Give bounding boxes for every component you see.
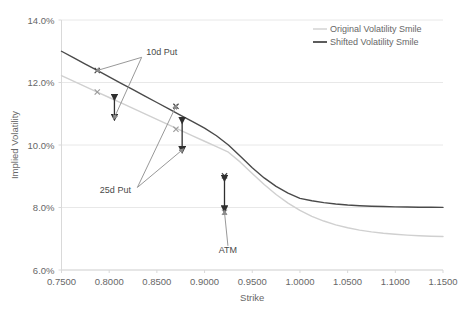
x-tick-label-4: 0.9500 xyxy=(238,276,267,287)
x-tick-label-7: 1.1000 xyxy=(381,276,410,287)
y-tick-label-4: 14.0% xyxy=(28,15,55,26)
y-tick-label-2: 10.0% xyxy=(28,140,55,151)
leader-25d-put-1 xyxy=(137,150,182,187)
leader-atm-0 xyxy=(224,212,227,246)
x-tick-label-1: 0.8000 xyxy=(95,276,124,287)
series-line-0 xyxy=(62,76,444,237)
legend-label-0: Original Volatility Smile xyxy=(330,24,422,34)
marker-25d-put-series-1 xyxy=(173,104,178,109)
series-line-1 xyxy=(62,51,444,207)
annotation-atm: ATM xyxy=(219,245,237,255)
x-axis-title: Strike xyxy=(240,292,264,303)
annotation-10d-put: 10d Put xyxy=(146,47,178,57)
x-tick-label-8: 1.1500 xyxy=(428,276,457,287)
y-tick-label-0: 6.0% xyxy=(33,265,55,276)
leader-10d-put-1 xyxy=(114,57,141,117)
legend-label-1: Shifted Volatility Smile xyxy=(330,37,419,47)
leader-10d-put-0 xyxy=(97,57,141,70)
x-tick-label-3: 0.9000 xyxy=(190,276,219,287)
y-tick-label-1: 8.0% xyxy=(33,202,55,213)
volatility-smile-chart: 6.0%8.0%10.0%12.0%14.0%0.75000.80000.850… xyxy=(0,0,467,320)
x-tick-label-0: 0.7500 xyxy=(47,276,76,287)
leader-25d-put-0 xyxy=(137,106,176,187)
chart-canvas: 6.0%8.0%10.0%12.0%14.0%0.75000.80000.850… xyxy=(0,0,467,320)
x-tick-label-5: 1.0000 xyxy=(285,276,314,287)
x-tick-label-2: 0.8500 xyxy=(142,276,171,287)
x-tick-label-6: 1.0500 xyxy=(333,276,362,287)
marker-atm-series-1 xyxy=(222,173,227,178)
annotation-25d-put: 25d Put xyxy=(100,185,132,195)
y-tick-label-3: 12.0% xyxy=(28,77,55,88)
marker-10d-put-series-0 xyxy=(95,89,100,94)
y-axis-title: Implied Volatility xyxy=(9,111,20,179)
